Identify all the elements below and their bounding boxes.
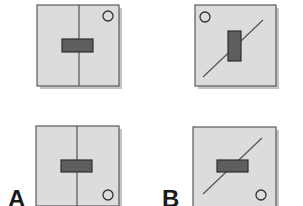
label-a: A <box>8 187 25 206</box>
panel-b-top <box>195 5 279 89</box>
horizontal-block <box>62 39 93 52</box>
horizontal-block <box>61 160 92 172</box>
horizontal-block <box>217 160 248 172</box>
panel-a-top <box>37 5 122 89</box>
diagram-canvas <box>0 0 303 206</box>
label-b: B <box>162 187 179 206</box>
panel-b-bottom <box>193 127 279 206</box>
vertical-block <box>228 31 241 61</box>
panel-a-bottom <box>36 126 122 206</box>
